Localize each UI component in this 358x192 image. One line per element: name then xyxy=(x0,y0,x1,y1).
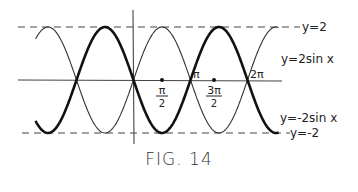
tick-dot-pi-over-2 xyxy=(160,78,164,82)
tick-label-pi: π xyxy=(193,68,200,81)
tick-label-3pi-over-2-den: 2 xyxy=(211,98,217,109)
label-curve-neg-2sinx: y=-2sin x xyxy=(280,111,337,125)
x-axis xyxy=(18,80,282,81)
label-y-equals-neg2: y=-2 xyxy=(290,126,319,140)
label-y-equals-2: y=2 xyxy=(302,20,327,34)
tick-label-2pi: 2π xyxy=(250,68,264,81)
tick-label-3pi-over-2-num: 3π xyxy=(207,84,221,97)
tick-label-pi-over-2-num: π xyxy=(159,84,166,97)
tick-label-pi-over-2-den: 2 xyxy=(159,98,165,109)
figure-caption: FIG. 14 xyxy=(0,149,358,169)
label-curve-2sinx: y=2sin x xyxy=(281,52,334,66)
tick-dot-3pi-over-2 xyxy=(212,78,216,82)
